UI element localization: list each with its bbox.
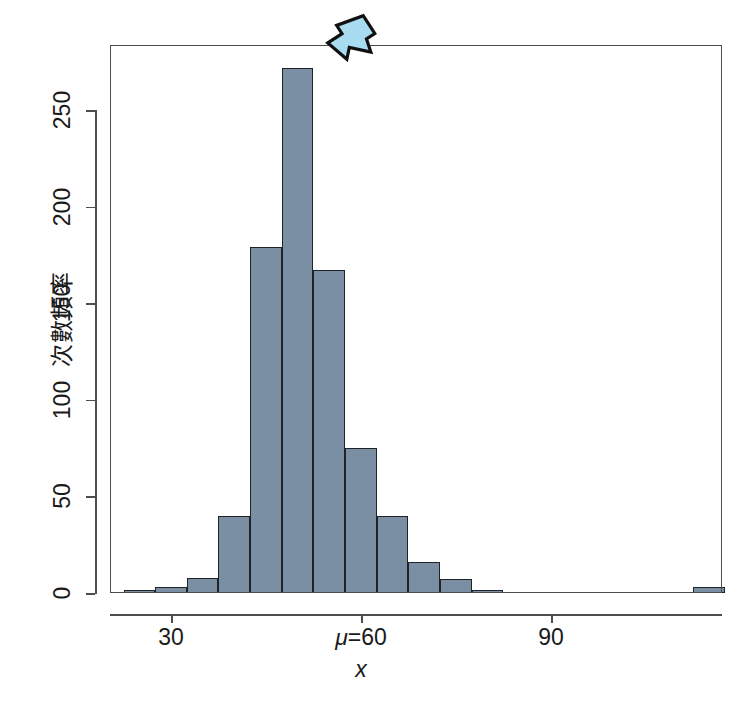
y-axis-tick <box>86 303 95 305</box>
y-axis-line <box>95 110 97 594</box>
y-axis-tick <box>86 110 95 112</box>
y-axis-title: 次數頻率 <box>51 271 74 367</box>
x-axis-tick-label: 30 <box>158 626 184 649</box>
y-axis-tick <box>86 207 95 209</box>
x-axis-tick-label: 90 <box>538 626 564 649</box>
x-axis-tick <box>361 614 363 623</box>
y-axis-tick <box>86 400 95 402</box>
y-axis-tick-label: 250 <box>51 91 74 129</box>
peak-arrow-annotation <box>322 4 384 66</box>
y-axis-tick-label: 50 <box>51 484 74 510</box>
x-axis-tick <box>551 614 553 623</box>
x-axis-tick <box>171 614 173 623</box>
plot-frame <box>110 45 722 593</box>
y-axis-tick <box>86 593 95 595</box>
y-axis-tick-label: 0 <box>51 587 74 600</box>
histogram-figure: 30μ=6090 050100150200250 x 次數頻率 <box>0 0 745 715</box>
x-axis-tick-label: μ=60 <box>335 626 387 649</box>
x-axis-title: x <box>355 658 367 681</box>
arrow-icon <box>322 4 384 66</box>
x-axis-line <box>110 614 722 616</box>
y-axis-tick-label: 100 <box>51 381 74 419</box>
y-axis-tick-label: 200 <box>51 187 74 225</box>
y-axis-tick <box>86 496 95 498</box>
